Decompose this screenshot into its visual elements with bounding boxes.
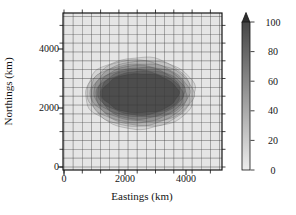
x-axis-label: Eastings (km) bbox=[111, 190, 173, 203]
x-tick-label: 0 bbox=[62, 173, 67, 184]
colorbar-ticks bbox=[251, 22, 255, 170]
colorbar-tick-label: 80 bbox=[268, 46, 278, 57]
colorbar-bar bbox=[242, 22, 250, 170]
colorbar-tick-label: 20 bbox=[268, 135, 278, 146]
colorbar-tick-label: 100 bbox=[266, 17, 281, 28]
colorbar: 0 20 40 60 80 100 bbox=[242, 13, 281, 176]
contour-plot-svg: 0 2000 4000 0 2000 4000 Eastings (km) No… bbox=[0, 0, 296, 215]
y-axis-label: Northings (km) bbox=[2, 57, 15, 125]
y-tick-label: 2000 bbox=[39, 102, 59, 113]
x-tick-label: 4000 bbox=[176, 173, 196, 184]
y-tick-label: 4000 bbox=[39, 43, 59, 54]
contour-figure: 0 2000 4000 0 2000 4000 Eastings (km) No… bbox=[0, 0, 296, 215]
colorbar-tick-label: 60 bbox=[268, 76, 278, 87]
y-tick-label: 0 bbox=[54, 161, 59, 172]
x-tick-label: 2000 bbox=[115, 173, 135, 184]
colorbar-arrow bbox=[242, 13, 250, 23]
colorbar-tick-label: 0 bbox=[271, 165, 276, 176]
colorbar-tick-label: 40 bbox=[268, 105, 278, 116]
